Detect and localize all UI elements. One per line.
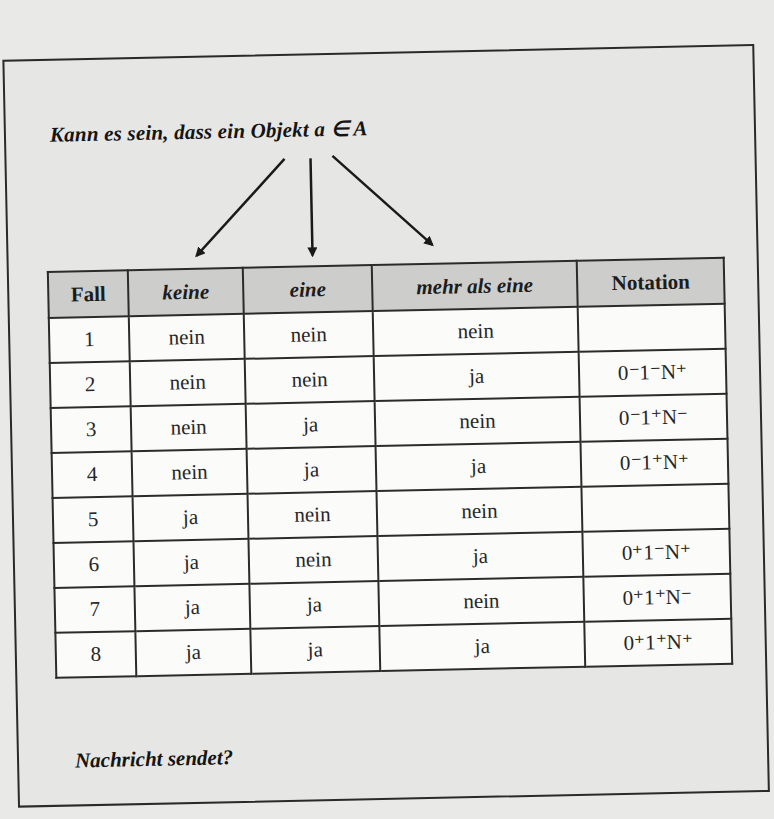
cell-fall: 8: [55, 631, 136, 678]
cell-fall: 5: [53, 496, 134, 543]
cell-notation: 0⁺1⁺N⁺: [584, 619, 732, 667]
cell-fall: 1: [49, 316, 130, 363]
cell-notation: 0⁺1⁻N⁺: [582, 529, 730, 577]
cell-eine: ja: [250, 626, 380, 674]
cell-eine: nein: [248, 536, 378, 584]
cell-keine: ja: [134, 584, 250, 631]
cell-notation: 0⁻1⁻N⁺: [579, 349, 727, 397]
cell-mehr-als-eine: ja: [376, 442, 582, 491]
cell-notation: [578, 304, 726, 352]
cell-mehr-als-eine: nein: [376, 487, 582, 536]
header-notation: Notation: [577, 258, 725, 307]
arrow-to-eine-icon: [311, 158, 313, 255]
cell-mehr-als-eine: nein: [373, 307, 579, 356]
cell-fall: 6: [54, 541, 135, 588]
page: Kann es sein, dass ein Objekt a ∈ A Fall: [0, 0, 774, 819]
cell-keine: nein: [131, 404, 247, 451]
cell-notation: 0⁻1⁺N⁺: [581, 439, 729, 487]
cell-notation: [581, 484, 729, 532]
cell-eine: nein: [248, 491, 378, 539]
cell-eine: ja: [246, 401, 376, 449]
cell-keine: nein: [132, 449, 248, 496]
cell-mehr-als-eine: nein: [378, 577, 584, 626]
header-mehr-als-eine: mehr als eine: [372, 261, 578, 311]
cell-mehr-als-eine: ja: [374, 352, 580, 401]
cell-mehr-als-eine: nein: [375, 397, 581, 446]
cell-keine: ja: [135, 629, 251, 676]
cell-fall: 4: [52, 451, 133, 498]
cell-notation: 0⁺1⁺N⁻: [583, 574, 731, 622]
cell-mehr-als-eine: ja: [377, 532, 583, 581]
arrow-to-keine-icon: [195, 159, 287, 256]
cell-fall: 7: [54, 586, 135, 633]
cell-keine: nein: [129, 314, 245, 361]
cell-eine: ja: [249, 581, 379, 629]
cases-table: Fall keine eine mehr als eine Notation 1…: [47, 257, 733, 679]
cell-keine: ja: [133, 539, 249, 586]
cell-eine: ja: [247, 446, 377, 494]
cell-mehr-als-eine: ja: [379, 622, 585, 671]
cell-notation: 0⁻1⁺N⁻: [580, 394, 728, 442]
cell-fall: 2: [50, 361, 131, 408]
figure-box: Kann es sein, dass ein Objekt a ∈ A Fall: [2, 44, 770, 808]
header-eine: eine: [243, 265, 373, 314]
cell-keine: ja: [133, 494, 249, 541]
cell-keine: nein: [130, 359, 246, 406]
cell-eine: nein: [244, 311, 374, 359]
arrow-to-mehr-als-eine-icon: [332, 154, 432, 247]
header-keine: keine: [128, 268, 244, 316]
cell-fall: 3: [51, 406, 132, 453]
header-fall: Fall: [48, 270, 129, 318]
cell-eine: nein: [245, 356, 375, 404]
question-ending: Nachricht sendet?: [75, 745, 234, 773]
